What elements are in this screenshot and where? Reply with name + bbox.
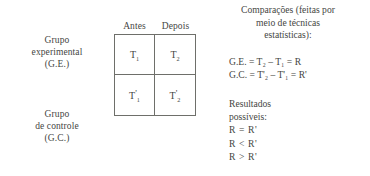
possible-results-block: Resultados possíveis: R = R' R < R' R > … bbox=[229, 97, 271, 163]
table-cell-row1-depois: T2 bbox=[155, 35, 195, 75]
cell-value-t1-prime: T'1 bbox=[129, 90, 140, 101]
cell-value-t1: T1 bbox=[130, 49, 139, 60]
experimental-group-line-3: (G.E.) bbox=[3, 58, 111, 70]
table-cell-row2-depois: T'2 bbox=[155, 75, 195, 115]
comparisons-title: Comparações (feitas por meio de técnicas… bbox=[212, 4, 364, 42]
cell-subscript: 1 bbox=[136, 55, 139, 62]
experimental-group-line-2: experimental bbox=[3, 46, 111, 58]
control-group-line-3: (G.C.) bbox=[3, 132, 111, 144]
comparisons-title-line-3: estatísticas): bbox=[212, 29, 364, 42]
table-cell-row2-antes: T'1 bbox=[115, 75, 155, 115]
right-text-column: Comparações (feitas por meio de técnicas… bbox=[212, 0, 370, 176]
control-group-line-1: Grupo bbox=[3, 108, 111, 120]
column-header-depois: Depois bbox=[155, 20, 196, 32]
experimental-group-label: Grupo experimental (G.E.) bbox=[3, 34, 111, 71]
cell-base-t: T bbox=[170, 49, 176, 60]
experimental-design-diagram: Grupo experimental (G.E.) Grupo de contr… bbox=[0, 0, 370, 176]
column-header-antes: Antes bbox=[114, 20, 155, 32]
cell-value-t2: T2 bbox=[170, 49, 179, 60]
comparisons-title-line-1: Comparações (feitas por bbox=[212, 4, 364, 17]
equation-ge: G.E. = T₂ – T₁ = R bbox=[229, 56, 307, 69]
results-title-line-2: possíveis: bbox=[229, 110, 271, 123]
cell-value-t2-prime: T'2 bbox=[170, 90, 181, 101]
result-item-less-than: R < R' bbox=[229, 137, 271, 150]
cell-subscript: 2 bbox=[177, 96, 180, 103]
cell-base-t: T bbox=[170, 90, 176, 101]
cell-subscript: 1 bbox=[137, 96, 140, 103]
control-group-label: Grupo de controle (G.C.) bbox=[3, 108, 111, 145]
table-cell-row1-antes: T1 bbox=[115, 35, 155, 75]
result-item-greater-than: R > R' bbox=[229, 150, 271, 163]
experimental-group-line-1: Grupo bbox=[3, 34, 111, 46]
design-matrix-table: T1 T2 T'1 T'2 bbox=[114, 34, 196, 116]
comparison-equations: G.E. = T₂ – T₁ = R G.C. = T'₂ – T'₁ = R' bbox=[229, 56, 307, 81]
cell-subscript: 2 bbox=[177, 55, 180, 62]
comparisons-title-line-2: meio de técnicas bbox=[212, 17, 364, 30]
result-item-equal: R = R' bbox=[229, 123, 271, 136]
control-group-line-2: de controle bbox=[3, 120, 111, 132]
equation-gc: G.C. = T'₂ – T'₁ = R' bbox=[229, 69, 307, 82]
table-column-headers: Antes Depois bbox=[114, 20, 196, 32]
results-title-line-1: Resultados bbox=[229, 97, 271, 110]
